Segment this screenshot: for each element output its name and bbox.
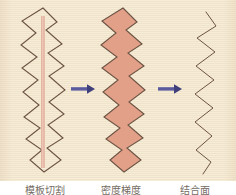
caption-stage-filled: 密度梯度	[82, 185, 160, 195]
stage-line-group	[195, 12, 216, 174]
caption-strip: 模板切割 密度梯度 结合面	[0, 181, 236, 195]
zigzag-filled-shape	[101, 8, 145, 172]
arrow-1	[71, 84, 95, 94]
diagram-artwork	[0, 0, 236, 181]
center-axis-line	[41, 16, 44, 168]
arrow-2	[158, 84, 182, 94]
stage-filled-group	[101, 8, 145, 172]
caption-stage-line: 结合面	[158, 185, 232, 195]
zigzag-polyline-shape	[195, 12, 216, 174]
stage-outline-group	[21, 8, 65, 172]
figure-root: 模板切割 密度梯度 结合面	[0, 0, 236, 195]
caption-stage-outline: 模板切割	[6, 185, 84, 195]
